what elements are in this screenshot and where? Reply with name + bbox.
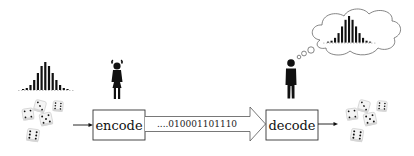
histogram-bar	[59, 85, 61, 90]
histogram-bar	[334, 38, 336, 43]
histogram-bar	[366, 41, 368, 43]
histogram-icon	[18, 62, 74, 91]
arrow-to-encoder	[73, 123, 93, 127]
histogram-bar	[341, 26, 343, 42]
histogram-bar	[359, 33, 361, 43]
histogram-bar	[26, 88, 28, 90]
histogram-bar	[33, 80, 35, 90]
histogram-bar	[345, 20, 347, 43]
histogram-bar	[355, 26, 357, 42]
histogram-bar	[52, 73, 54, 90]
histogram-bar	[338, 33, 340, 43]
channel-arrow: ....010001101110	[145, 107, 266, 141]
histogram-bar	[327, 42, 329, 43]
histogram-bar	[29, 85, 31, 90]
histogram-bar	[348, 16, 350, 43]
histogram-bar	[55, 80, 57, 90]
arrow-to-output	[318, 122, 338, 126]
dice-icon	[22, 99, 64, 142]
woman-icon	[112, 60, 123, 99]
encode-decode-diagram: encode ....010001101110 decode	[0, 0, 414, 156]
histogram-bar	[362, 38, 364, 43]
decoder-box: decode	[266, 110, 318, 140]
man-icon	[286, 59, 297, 98]
dice-icon	[346, 99, 388, 142]
histogram-bar	[352, 20, 354, 43]
histogram-bar	[63, 88, 65, 90]
histogram-bar	[37, 73, 39, 90]
histogram-bar	[41, 66, 43, 90]
decoder-label: decode	[268, 118, 315, 133]
histogram-bar	[369, 42, 371, 43]
encoder-label: encode	[95, 118, 142, 133]
histogram-bar	[48, 66, 50, 90]
histogram-bar	[44, 62, 46, 90]
histogram-bar	[22, 89, 24, 90]
histogram-bar	[331, 41, 333, 43]
histogram-bar	[66, 89, 68, 90]
encoder-box: encode	[93, 110, 145, 140]
channel-bits: ....010001101110	[157, 119, 237, 129]
